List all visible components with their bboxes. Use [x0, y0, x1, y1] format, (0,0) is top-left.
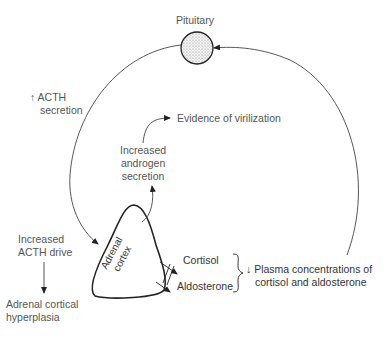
plasma-label: ↓ Plasma concentrations of cortisol and … — [246, 263, 372, 289]
pituitary-label: Pituitary — [176, 14, 214, 27]
acth-secretion-label: ↑ ACTH secretion — [30, 91, 83, 117]
acth-drive-line-1: Increased — [18, 233, 64, 245]
plasma-line-2: cortisol and aldosterone — [246, 276, 367, 288]
hyperplasia-line-1: Adrenal cortical — [6, 298, 78, 310]
feedback-arrow — [214, 47, 358, 255]
hyperplasia-line-2: hyperplasia — [6, 311, 60, 323]
acth-text: ACTH — [38, 91, 67, 103]
hyperplasia-label: Adrenal cortical hyperplasia — [6, 298, 78, 324]
acth-drive-line-2: ACTH drive — [18, 246, 72, 258]
androgen-line-3: secretion — [122, 170, 165, 182]
pituitary-gland-icon — [181, 32, 213, 64]
cortisol-label: Cortisol — [183, 254, 219, 267]
down-arrow-icon: ↓ — [246, 263, 251, 275]
androgen-line-2: androgen — [121, 157, 165, 169]
aldosterone-label: Aldosterone — [177, 280, 233, 293]
secretion-text: secretion — [30, 104, 83, 116]
plasma-line-1: Plasma concentrations of — [254, 263, 372, 275]
acth-drive-label: Increased ACTH drive — [18, 233, 72, 259]
virilization-label: Evidence of virilization — [177, 112, 281, 125]
virilization-arrow — [143, 118, 170, 143]
androgen-line-1: Increased — [120, 144, 166, 156]
up-arrow-icon: ↑ — [30, 91, 35, 103]
brace — [233, 254, 243, 292]
androgen-label: Increased androgen secretion — [120, 144, 166, 183]
